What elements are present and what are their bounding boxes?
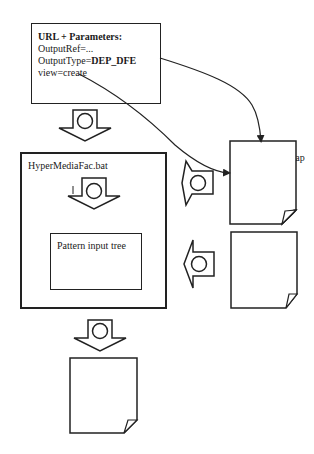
map-line-create: create=: [234, 171, 264, 183]
step-3-number: 3: [89, 187, 99, 199]
pattern-input-tree-label: Pattern input tree: [57, 240, 126, 252]
conversion-file-document: [231, 232, 297, 308]
map-line-default: default=: [234, 195, 267, 207]
output-type-line: OutputType=DEP_DFE: [38, 55, 136, 67]
hypermedia-fac-title: HyperMediaFac.bat: [28, 160, 108, 172]
step-1-number: 1: [80, 117, 90, 129]
step-5-number: 5: [95, 331, 105, 343]
output-type-value: DEP_DFE: [91, 55, 136, 66]
step-2-number: 2: [193, 179, 203, 191]
map-file-name: DEP_DFE: [240, 152, 285, 163]
step-4-number: 4: [194, 260, 204, 272]
map-file-title: DEP_DFE.map: [240, 152, 305, 164]
view-line: view=create: [38, 67, 87, 79]
map-line-a-create: a_create=: [234, 183, 273, 195]
output-ref-line: OutputRef=...: [38, 43, 93, 55]
map-file-ext: .map: [285, 152, 305, 163]
url-parameters-title: URL + Parameters:: [38, 31, 122, 43]
conversion-file-line2: file: [243, 257, 256, 269]
conversion-file-line1: Conversion: [243, 245, 289, 257]
output-type-key: OutputType=: [38, 55, 91, 66]
html-file-label: HTML-File: [82, 369, 129, 381]
output-type-connector: [160, 58, 261, 141]
